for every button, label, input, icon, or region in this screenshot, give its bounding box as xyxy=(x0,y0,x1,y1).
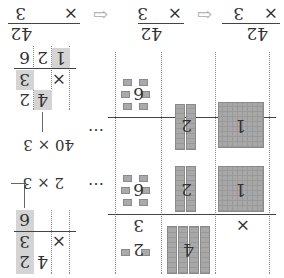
grid-divider xyxy=(108,214,276,215)
header-problem-2: 42 × 3 xyxy=(124,4,184,44)
header-problem-1: 42 × 3 xyxy=(220,4,280,44)
ellipsis: ⋯ xyxy=(88,175,104,194)
times-sign: × xyxy=(236,217,250,234)
arrow-icon: ⇦ xyxy=(197,5,212,26)
step-label: 2 × 3 xyxy=(23,174,64,192)
step-label: 40 × 3 xyxy=(23,136,74,154)
pointer-arrow xyxy=(42,112,43,132)
written-step-1: 4 2 × 3 6 2 × 3 xyxy=(0,164,84,274)
arrow-icon: ⇦ xyxy=(93,5,108,26)
ellipsis: ⋯ xyxy=(88,121,104,140)
diagram-root: 42 × 3 ⇦ 42 × 3 ⇦ 42 × 3 × 4 2 3 1 2 xyxy=(0,0,284,278)
header-problem-3: 42 × 3 xyxy=(0,4,80,44)
written-step-2: 40 × 3 4 2 × 3 1 2 6 xyxy=(0,44,84,154)
